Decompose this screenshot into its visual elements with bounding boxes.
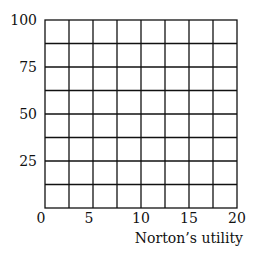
y-axis-ticks: 100 75 50 25 (10, 12, 37, 169)
y-tick-50: 50 (19, 106, 37, 122)
x-tick-5: 5 (85, 210, 94, 226)
chart: 100 75 50 25 0 5 10 15 20 Norton’s utili… (0, 0, 256, 255)
x-tick-15: 15 (180, 210, 198, 226)
x-tick-10: 10 (132, 210, 150, 226)
y-tick-25: 25 (19, 153, 37, 169)
x-tick-0: 0 (37, 210, 46, 226)
y-tick-100: 100 (10, 12, 37, 28)
y-tick-75: 75 (19, 59, 37, 75)
grid (45, 20, 237, 208)
x-axis-ticks: 0 5 10 15 20 (37, 210, 246, 226)
x-axis-label: Norton’s utility (135, 230, 243, 246)
x-tick-20: 20 (228, 210, 246, 226)
